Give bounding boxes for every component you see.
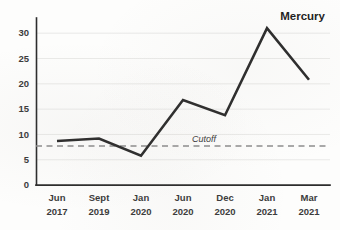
x-tick-year-0: 2017: [46, 206, 67, 217]
x-tick-year-3: 2020: [172, 206, 193, 217]
cutoff-label: Cutoff: [192, 134, 218, 144]
x-tick-month-4: Dec: [216, 192, 233, 203]
x-axis-tick-labels: Jun 2017 Sept 2019 Jan 2020 Jun 2020 Dec…: [46, 192, 320, 217]
x-tick-year-6: 2021: [298, 206, 320, 217]
x-tick-year-1: 2019: [88, 206, 109, 217]
y-tick-label-0: 0: [24, 179, 29, 190]
x-tick-year-4: 2020: [214, 206, 235, 217]
y-tick-label-30: 30: [18, 27, 29, 38]
y-axis-tick-labels: 30 25 20 15 10 5 0: [18, 27, 29, 190]
x-tick-month-6: Mar: [301, 192, 318, 203]
y-tick-label-10: 10: [18, 129, 29, 140]
chart-canvas: 30 25 20 15 10 5 0 Cutoff Mercury Jun 20…: [0, 0, 340, 230]
x-tick-month-3: Jun: [175, 192, 192, 203]
x-tick-year-5: 2021: [256, 206, 278, 217]
series-label-mercury: Mercury: [280, 10, 325, 22]
x-tick-month-2: Jan: [133, 192, 150, 203]
mercury-line-chart: 30 25 20 15 10 5 0 Cutoff Mercury Jun 20…: [0, 0, 340, 230]
x-tick-year-2: 2020: [130, 206, 151, 217]
series-line-mercury: [57, 28, 309, 156]
y-tick-label-5: 5: [24, 154, 30, 165]
y-tick-label-15: 15: [18, 103, 29, 114]
y-tick-label-20: 20: [18, 78, 29, 89]
x-tick-month-5: Jan: [259, 192, 276, 203]
x-tick-month-0: Jun: [49, 192, 66, 203]
y-tick-label-25: 25: [18, 53, 29, 64]
x-tick-month-1: Sept: [89, 192, 110, 203]
